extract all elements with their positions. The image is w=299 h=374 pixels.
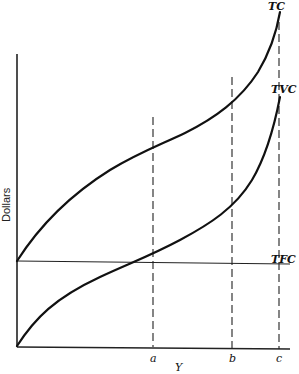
x-axis (17, 347, 290, 349)
cost-curves-chart: TC TVC TFC a b c Y Dollars (0, 0, 299, 374)
tvc-label: TVC (271, 83, 297, 96)
tvc-curve (17, 97, 280, 346)
x-tick-c: c (276, 352, 282, 365)
x-axis-label: Y (175, 361, 184, 374)
x-tick-a: a (150, 352, 157, 365)
x-tick-b: b (229, 352, 236, 365)
tc-curve (17, 12, 280, 261)
tc-label: TC (268, 0, 285, 13)
y-axis-label: Dollars (0, 187, 12, 222)
tfc-label: TFC (271, 253, 296, 266)
